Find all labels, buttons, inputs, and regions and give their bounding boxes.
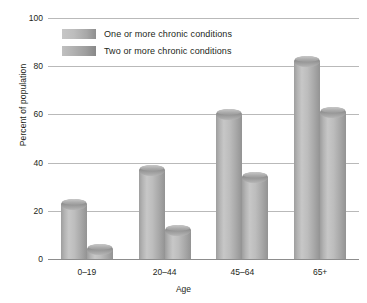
y-tick-label: 0 (38, 254, 43, 264)
legend-swatch-icon (62, 46, 96, 56)
x-axis-title: Age (0, 284, 367, 294)
gridline (48, 259, 359, 260)
bar (61, 204, 87, 259)
y-tick-label: 20 (34, 206, 43, 216)
y-tick-label: 40 (34, 158, 43, 168)
y-tick-label: 100 (29, 13, 43, 23)
bar-chart: Percent of population 020406080100 0–192… (0, 0, 367, 303)
x-tick-label: 0–19 (52, 267, 122, 277)
x-tick-label: 45–64 (207, 267, 277, 277)
bar-cap (216, 109, 242, 120)
bar (139, 170, 165, 259)
bar (294, 61, 320, 259)
bar (242, 177, 268, 259)
bar-cap (139, 165, 165, 176)
legend-item: One or more chronic conditions (62, 27, 232, 41)
legend-item-label: One or more chronic conditions (104, 29, 232, 39)
bar-cap (242, 172, 268, 183)
bar-cap (165, 225, 191, 236)
bar (87, 249, 113, 259)
bar-cap (61, 199, 87, 210)
x-tick-label: 65+ (285, 267, 355, 277)
bar-cap (294, 56, 320, 67)
bar (165, 230, 191, 259)
legend: One or more chronic conditions Two or mo… (62, 27, 232, 61)
bar (216, 114, 242, 259)
legend-item-label: Two or more chronic conditions (104, 46, 232, 56)
legend-item: Two or more chronic conditions (62, 44, 232, 58)
bar-cap (87, 244, 113, 255)
bar-group: 65+ (281, 18, 359, 259)
legend-swatch-icon (62, 29, 96, 39)
bar (320, 112, 346, 259)
y-axis-title: Percent of population (18, 30, 28, 180)
bar-cap (320, 107, 346, 118)
x-tick-label: 20–44 (130, 267, 200, 277)
y-tick-label: 60 (34, 109, 43, 119)
y-tick-label: 80 (34, 61, 43, 71)
